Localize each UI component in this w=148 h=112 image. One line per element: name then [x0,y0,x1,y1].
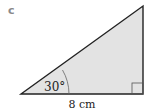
right-triangle-diagram: 30° 8 cm [0,0,148,112]
angle-label: 30° [44,80,65,94]
base-label: 8 cm [68,98,96,111]
triangle-shape [21,6,143,94]
